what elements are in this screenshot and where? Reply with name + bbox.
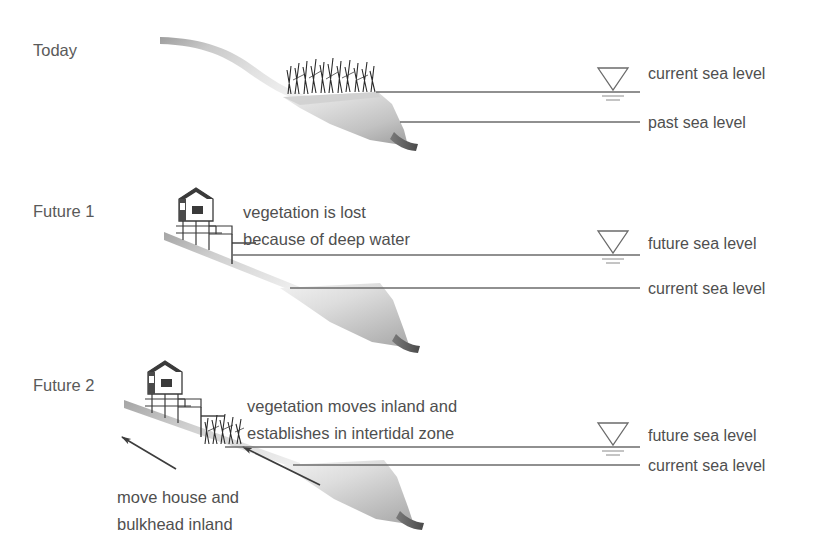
move-house-note: move house and bulkhead inland: [117, 488, 239, 533]
stage-label-future-1: Future 1: [33, 202, 94, 220]
house-window: [161, 379, 172, 387]
wedge-body-future-1: [280, 283, 410, 348]
stage-label-future-2: Future 2: [33, 376, 94, 394]
upland-slope-today: [160, 37, 312, 103]
vegetation-moves-note: vegetation moves inland and establishes …: [247, 397, 457, 442]
current-sea-level-today: current sea level: [376, 65, 765, 100]
label-current-sea-level: current sea level: [648, 280, 765, 297]
label-current-sea-level: current sea level: [648, 457, 765, 474]
note-line-1: vegetation is lost: [243, 203, 366, 221]
marsh-vegetation-today: [287, 58, 375, 94]
wedge-body-future-2: [283, 460, 414, 525]
vegetation-lost-note: vegetation is lost because of deep water: [243, 203, 410, 248]
note-line-2: because of deep water: [243, 230, 410, 248]
water-triangle-icon: [598, 423, 628, 455]
slope-band-today: [160, 37, 312, 103]
label-future-sea-level: future sea level: [648, 235, 757, 252]
marsh-vegetation-future-2: [205, 414, 244, 444]
stage-label-today: Today: [33, 41, 78, 59]
house-side-window: [149, 376, 154, 383]
past-sea-level-today: past sea level: [400, 114, 746, 131]
water-triangle-icon: [598, 68, 628, 100]
submerged-wedge-future-1: [280, 283, 420, 353]
retreat-arrow-upper: [122, 437, 176, 469]
note-line-1: move house and: [117, 488, 239, 506]
note-line-1: vegetation moves inland and: [247, 397, 457, 415]
label-future-sea-level: future sea level: [648, 427, 757, 444]
marsh-wedge-today: [283, 92, 418, 151]
water-triangle-icon: [598, 231, 628, 263]
house-side-window: [180, 203, 185, 210]
note-line-2: bulkhead inland: [117, 515, 233, 533]
panel-future-2: Future 2: [33, 361, 765, 533]
label-current-sea-level: current sea level: [648, 65, 765, 82]
label-past-sea-level: past sea level: [648, 114, 746, 131]
sea-level-rise-diagram: Today current sea level: [0, 0, 830, 553]
house-window: [192, 206, 203, 214]
note-line-2: establishes in intertidal zone: [247, 424, 454, 442]
panel-future-1: Future 1: [33, 188, 765, 353]
panel-today: Today current sea level: [33, 37, 765, 151]
submerged-wedge-future-2: [283, 460, 424, 530]
